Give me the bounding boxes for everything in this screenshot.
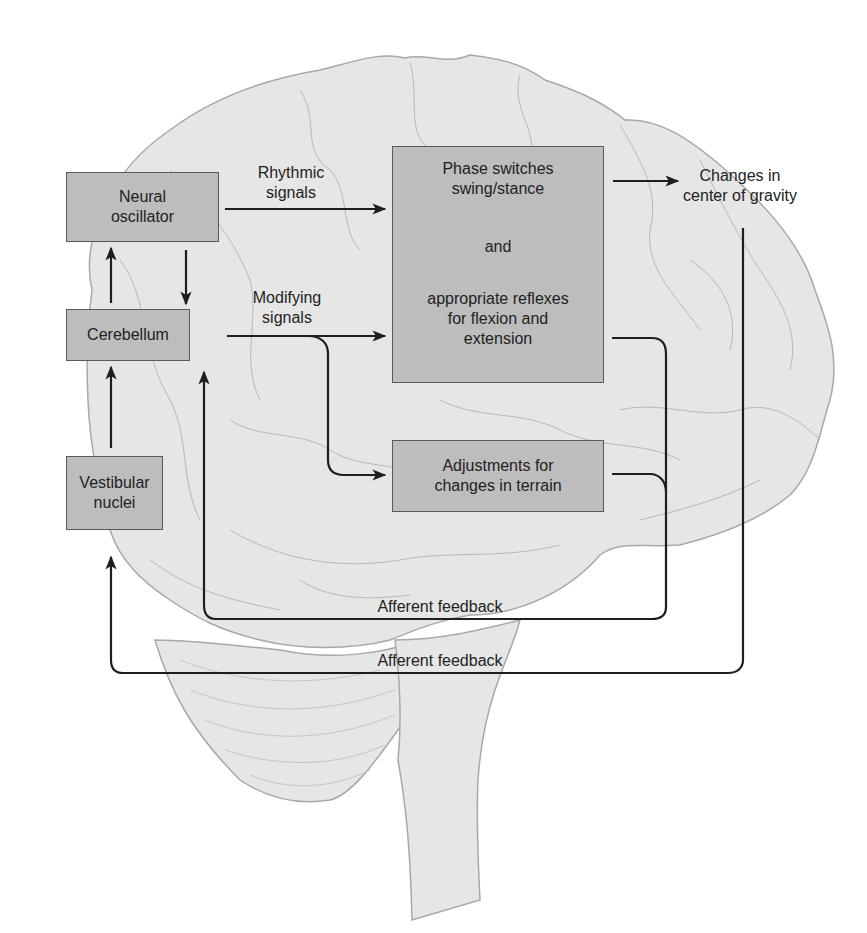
cerebellum-label: Cerebellum [87,325,169,345]
neural-oscillator-line2: oscillator [111,207,174,227]
phase-line4: appropriate reflexes [427,289,568,309]
afferent-feedback-inner-label: Afferent feedback [340,597,540,617]
cog-line1: Changes in [664,166,816,186]
phase-switches-box: Phase switches swing/stance and appropri… [392,146,604,383]
phase-line1: Phase switches [442,159,553,179]
modifying-line1: Modifying [234,288,340,308]
modifying-signals-label: Modifying signals [234,288,340,328]
adjustments-line1: Adjustments for [442,456,553,476]
neural-oscillator-box: Neural oscillator [66,172,219,242]
vestibular-nuclei-box: Vestibular nuclei [66,456,163,530]
rhythmic-line1: Rhythmic [238,163,344,183]
rhythmic-signals-label: Rhythmic signals [238,163,344,203]
phase-line6: extension [464,329,533,349]
center-of-gravity-label: Changes in center of gravity [664,166,816,206]
modifying-line2: signals [234,308,340,328]
rhythmic-line2: signals [238,183,344,203]
adjustments-line2: changes in terrain [434,476,561,496]
vestibular-line1: Vestibular [79,473,149,493]
cog-line2: center of gravity [664,186,816,206]
phase-line3: and [485,237,512,257]
afferent-feedback-outer-label: Afferent feedback [340,651,540,671]
vestibular-line2: nuclei [94,493,136,513]
phase-line5: for flexion and [448,309,549,329]
phase-line2: swing/stance [452,179,545,199]
adjustments-box: Adjustments for changes in terrain [392,440,604,512]
neural-oscillator-line1: Neural [119,187,166,207]
cerebellum-box: Cerebellum [66,309,190,361]
